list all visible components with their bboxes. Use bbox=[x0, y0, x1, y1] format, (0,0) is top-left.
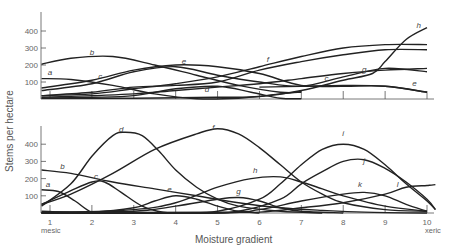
chart: 100200300400abccdeefgh 10020030040012345… bbox=[0, 0, 454, 249]
series-label-b: b bbox=[60, 162, 65, 171]
series-label-l: l bbox=[397, 180, 399, 189]
series-label-g: g bbox=[236, 187, 241, 196]
y-tick-label: 400 bbox=[25, 27, 39, 36]
x-tick-label: 3 bbox=[132, 218, 137, 227]
series-label-a: a bbox=[46, 180, 51, 189]
series-label-h: h bbox=[253, 166, 258, 175]
series-label-e: e bbox=[182, 57, 187, 66]
series-label-a: a bbox=[48, 68, 53, 77]
x-tick-label: 9 bbox=[383, 218, 388, 227]
y-tick-label: 100 bbox=[25, 78, 39, 87]
y-tick-label: 200 bbox=[25, 175, 39, 184]
series-label-f: f bbox=[212, 123, 215, 132]
x-tick-label: 5 bbox=[215, 218, 220, 227]
series-label-g: g bbox=[362, 65, 367, 74]
series-label-c: c bbox=[98, 72, 102, 81]
y-tick-label: 300 bbox=[25, 44, 39, 53]
x-tick-label: 4 bbox=[173, 218, 178, 227]
series-label-e: e bbox=[167, 185, 172, 194]
series-curve-g bbox=[42, 197, 344, 213]
series-label-k: k bbox=[358, 180, 363, 189]
y-tick-label: 300 bbox=[25, 157, 39, 166]
series-curve-f bbox=[42, 129, 427, 212]
series-label-f: f bbox=[267, 55, 270, 64]
y-tick-label: 400 bbox=[25, 140, 39, 149]
x-axis-title: Moisture gradient bbox=[195, 234, 272, 245]
series-label-b: b bbox=[90, 48, 95, 57]
series-curve-b bbox=[42, 170, 427, 213]
series-label-d: d bbox=[205, 85, 210, 94]
series-curve-h bbox=[42, 28, 427, 99]
series-label-d: d bbox=[119, 125, 124, 134]
top-panel: 100200300400abccdeefgh bbox=[25, 12, 434, 99]
mesic-label: mesic bbox=[41, 226, 61, 235]
series-label-h: h bbox=[416, 21, 421, 30]
bottom-panel: 10020030040012345678910abcdefghijkl bbox=[25, 123, 436, 227]
y-axis-title: Stems per hectare bbox=[4, 90, 15, 172]
x-tick-label: 8 bbox=[341, 218, 346, 227]
y-tick-label: 200 bbox=[25, 61, 39, 70]
x-tick-label: 2 bbox=[90, 218, 95, 227]
x-tick-label: 6 bbox=[257, 218, 262, 227]
series-label-c: c bbox=[94, 172, 98, 181]
series-label-j: j bbox=[362, 156, 365, 165]
y-tick-label: 100 bbox=[25, 192, 39, 201]
series-label-i: i bbox=[342, 129, 344, 138]
xeric-label: xeric bbox=[425, 226, 441, 235]
x-tick-label: 7 bbox=[299, 218, 304, 227]
series-label-e: e bbox=[412, 79, 417, 88]
